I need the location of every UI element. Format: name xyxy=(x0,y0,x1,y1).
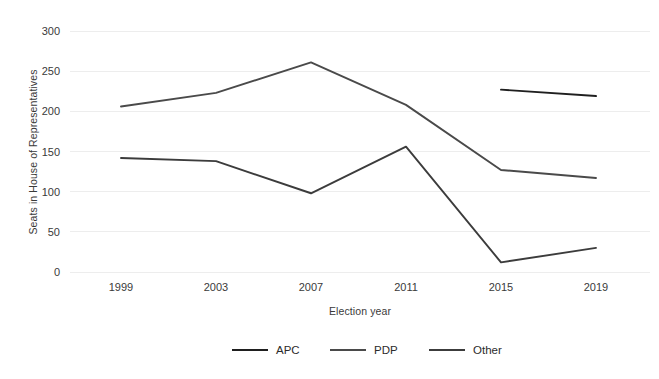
x-tick-label: 2015 xyxy=(489,281,513,293)
y-tick-label: 250 xyxy=(42,65,60,77)
chart-background xyxy=(0,0,659,379)
y-axis-title: Seats in House of Representatives xyxy=(27,70,39,235)
x-tick-label: 2011 xyxy=(394,281,418,293)
y-tick-label: 0 xyxy=(54,266,60,278)
y-tick-label: 300 xyxy=(42,25,60,37)
y-tick-label: 200 xyxy=(42,105,60,117)
x-tick-label: 2019 xyxy=(584,281,608,293)
chart-canvas: 050100150200250300 199920032007201120152… xyxy=(0,0,659,379)
x-axis-title: Election year xyxy=(329,305,391,317)
y-tick-label: 50 xyxy=(48,226,60,238)
legend-label-apc[interactable]: APC xyxy=(276,344,300,356)
x-tick-label: 2007 xyxy=(299,281,323,293)
legend-label-other[interactable]: Other xyxy=(473,344,502,356)
y-tick-label: 150 xyxy=(42,146,60,158)
legend-label-pdp[interactable]: PDP xyxy=(374,344,398,356)
y-tick-label: 100 xyxy=(42,186,60,198)
x-tick-label: 1999 xyxy=(109,281,133,293)
line-chart: 050100150200250300 199920032007201120152… xyxy=(0,0,659,379)
x-tick-label: 2003 xyxy=(204,281,228,293)
